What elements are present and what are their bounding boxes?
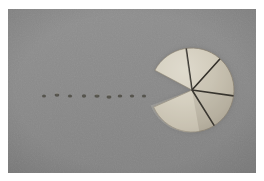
crumb-highlight xyxy=(95,94,99,96)
photograph xyxy=(8,9,256,173)
photo-frame: Pac-Man figure made from a sliced round … xyxy=(0,0,264,181)
crumb-dot xyxy=(68,94,72,97)
crumb-dot xyxy=(82,94,86,97)
crumb-highlight xyxy=(107,94,111,96)
crumb-highlight xyxy=(55,93,59,95)
photo-scene xyxy=(8,9,256,173)
crumb-dot xyxy=(118,94,123,97)
crumb-dot xyxy=(130,94,134,97)
crumb-dot xyxy=(42,95,46,98)
crumb-dot xyxy=(142,94,146,97)
